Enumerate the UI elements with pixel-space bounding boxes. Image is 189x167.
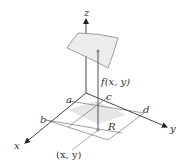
x-axis-label: x bbox=[14, 141, 20, 151]
surface-patch bbox=[67, 33, 118, 68]
point-label: (x, y) bbox=[56, 150, 81, 160]
diagram-canvas bbox=[0, 0, 189, 167]
region-label: R bbox=[108, 122, 116, 132]
y-axis-label: y bbox=[170, 124, 176, 134]
bound-b-label: b bbox=[40, 115, 46, 125]
bound-a-label: a bbox=[66, 95, 72, 105]
point-leader-line bbox=[72, 131, 97, 150]
height-label: f(x, y) bbox=[101, 77, 130, 87]
surface-point bbox=[96, 49, 99, 52]
z-axis-label: z bbox=[84, 8, 89, 18]
bound-c-label: c bbox=[106, 92, 112, 102]
bound-d-label: d bbox=[143, 105, 149, 115]
x-axis bbox=[25, 93, 86, 143]
